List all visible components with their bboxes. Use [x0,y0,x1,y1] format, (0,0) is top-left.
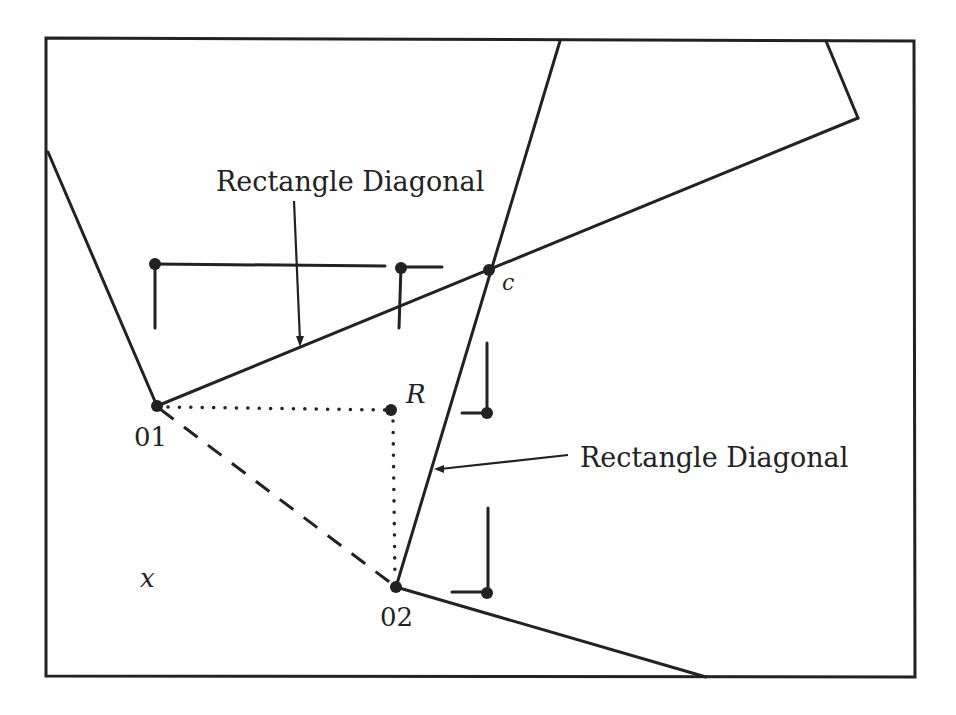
label-rectangle-diagonal-top: Rectangle Diagonal [216,166,484,197]
rectangle-diagonal-upper [157,118,858,406]
point-o1-dot [151,400,163,412]
dashed-o1-o2 [160,409,396,587]
point-o2-dot [390,581,402,593]
point-c-dot [483,264,495,276]
label-point-x: x [140,563,155,593]
frame-border [46,38,915,677]
geometry-diagram: Rectangle Diagonal Rectangle Diagonal c … [0,0,956,715]
label-rectangle-diagonal-right: Rectangle Diagonal [580,442,848,473]
label-point-c: c [502,270,514,295]
arrow-to-upper-diagonal [294,201,300,341]
label-point-r: R [405,379,426,409]
edge-upper-right [826,41,858,118]
rectangle-diagonal-right [396,41,560,587]
point-r-dot [385,404,397,416]
arrow-to-right-diagonal [440,455,568,469]
label-point-o2: 02 [380,602,413,632]
edge-left-to-o1 [48,152,157,406]
label-point-o1: 01 [134,422,167,452]
rectangle-corner-markers [149,258,493,599]
edge-o2-to-bottom [396,587,706,677]
leader-arrows [294,201,568,473]
arrowhead-right [434,465,444,473]
dotted-right-angle [168,407,395,580]
region-boundary-lines [48,41,858,677]
